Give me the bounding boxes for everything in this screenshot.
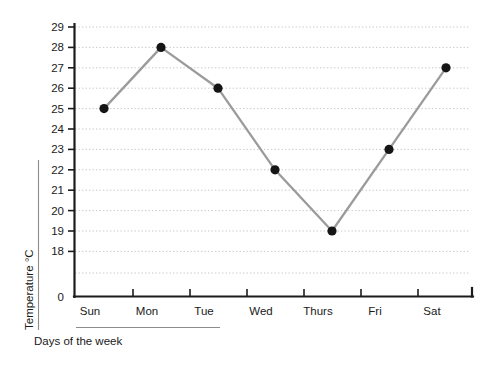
x-tick-label-wed: Wed xyxy=(249,305,272,317)
data-point-tue[interactable] xyxy=(213,84,222,93)
y-tick-label-21: 21 xyxy=(51,184,64,196)
gridlines xyxy=(75,27,470,273)
y-tick-label-18: 18 xyxy=(51,245,64,257)
x-axis xyxy=(74,288,473,297)
x-tick-label-fri: Fri xyxy=(368,305,381,317)
x-axis-title: Days of the week xyxy=(34,335,122,347)
data-point-mon[interactable] xyxy=(156,43,165,52)
data-point-sat[interactable] xyxy=(441,63,450,72)
y-tick-label-24: 24 xyxy=(51,123,64,135)
y-tick-label-22: 22 xyxy=(51,164,64,176)
data-point-sun[interactable] xyxy=(99,104,108,113)
temperature-series-line xyxy=(104,47,446,231)
y-tick-labels: 29 28 27 26 25 24 23 22 21 20 19 18 0 xyxy=(51,21,64,303)
y-tick-label-26: 26 xyxy=(51,82,64,94)
y-tick-label-23: 23 xyxy=(51,143,64,155)
y-axis-title: Temperature °C xyxy=(23,249,35,330)
y-tick-label-29: 29 xyxy=(51,21,64,33)
temperature-line-chart: 29 28 27 26 25 24 23 22 21 20 19 18 0 xyxy=(0,0,500,365)
x-tick-label-sun: Sun xyxy=(80,305,100,317)
data-point-thurs[interactable] xyxy=(327,226,336,235)
x-tick-labels: Sun Mon Tue Wed Thurs Fri Sat xyxy=(80,305,442,317)
x-tick-label-thurs: Thurs xyxy=(303,305,333,317)
y-tick-label-origin: 0 xyxy=(58,291,64,303)
y-tick-label-25: 25 xyxy=(51,103,64,115)
y-axis xyxy=(68,24,75,297)
y-tick-label-28: 28 xyxy=(51,41,64,53)
data-point-fri[interactable] xyxy=(384,145,393,154)
y-tick-label-27: 27 xyxy=(51,62,64,74)
data-point-markers xyxy=(99,43,450,236)
data-point-wed[interactable] xyxy=(270,165,279,174)
y-tick-label-20: 20 xyxy=(51,205,64,217)
x-tick-label-sat: Sat xyxy=(423,305,441,317)
y-tick-label-19: 19 xyxy=(51,225,64,237)
x-tick-label-mon: Mon xyxy=(136,305,158,317)
x-tick-label-tue: Tue xyxy=(194,305,213,317)
chart-canvas: 29 28 27 26 25 24 23 22 21 20 19 18 0 xyxy=(0,0,500,365)
